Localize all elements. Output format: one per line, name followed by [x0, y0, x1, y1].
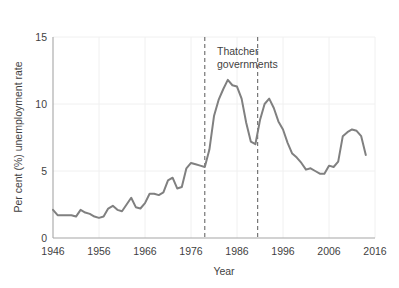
chart-figure: 15 10 5 0 1946 1956 1966 1976 1986 1996 … — [0, 0, 399, 288]
x-tick-label-1956: 1956 — [87, 245, 111, 257]
x-tick-label-2016: 2016 — [363, 245, 387, 257]
x-tick-label-1996: 1996 — [271, 245, 295, 257]
x-tick-label-1976: 1976 — [179, 245, 203, 257]
y-tick-label-5: 5 — [41, 165, 47, 177]
y-tick-label-15: 15 — [35, 31, 47, 43]
y-tick-label-10: 10 — [35, 98, 47, 110]
y-axis-title: Per cent (%) unemployment rate — [12, 61, 24, 212]
x-axis-title: Year — [213, 265, 235, 277]
x-tick-label-1986: 1986 — [225, 245, 249, 257]
unemployment-line-chart: 15 10 5 0 1946 1956 1966 1976 1986 1996 … — [0, 0, 399, 288]
x-tick-label-1966: 1966 — [133, 245, 157, 257]
annotation-line-2: governments — [217, 58, 278, 70]
x-tick-label-1946: 1946 — [41, 245, 65, 257]
x-tick-label-2006: 2006 — [317, 245, 341, 257]
annotation-line-1: Thatcher — [217, 45, 259, 57]
y-tick-label-0: 0 — [41, 232, 47, 244]
